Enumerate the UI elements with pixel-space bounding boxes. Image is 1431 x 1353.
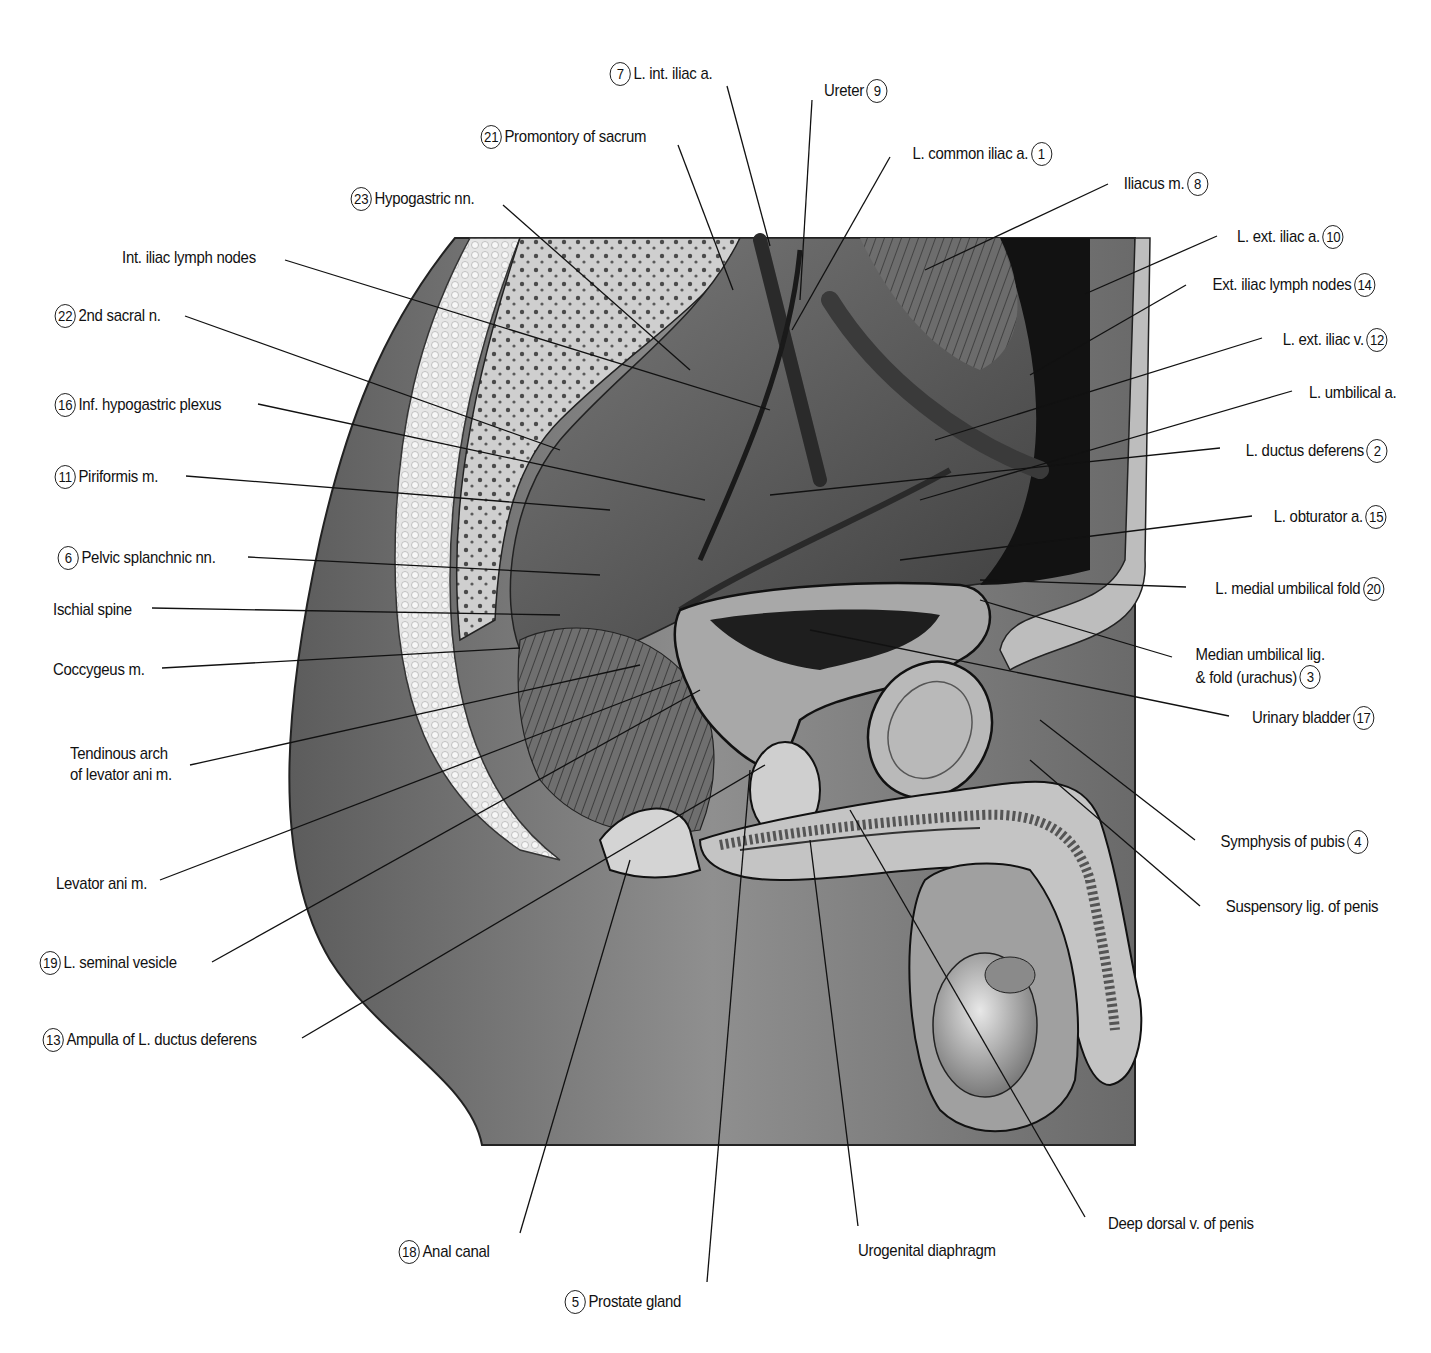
- label-number-badge: 7: [610, 62, 631, 86]
- label-text: L. ductus deferens: [1246, 441, 1364, 460]
- label-text: Anal canal: [422, 1242, 489, 1261]
- label-number-badge: 17: [1353, 706, 1374, 730]
- label-text: Ext. iliac lymph nodes: [1213, 275, 1352, 294]
- label-text: Ureter: [824, 81, 864, 100]
- label-l17: Urinary bladder17: [1252, 706, 1377, 730]
- label-text: L. seminal vesicle: [63, 953, 176, 972]
- label-l7: 7L. int. iliac a.: [607, 62, 712, 86]
- label-text: Deep dorsal v. of penis: [1108, 1214, 1254, 1233]
- label-l1: L. common iliac a.1: [912, 142, 1054, 166]
- label-number-badge: 13: [43, 1028, 64, 1052]
- label-l9: Ureter9: [824, 79, 890, 103]
- label-l15: L. obturator a.15: [1274, 505, 1390, 529]
- label-text: Pelvic splanchnic nn.: [81, 548, 215, 567]
- label-l11: 11Piriformis m.: [52, 465, 158, 489]
- label-l23: 23Hypogastric nn.: [348, 187, 474, 211]
- label-number-badge: 22: [55, 304, 76, 328]
- label-lischial: Ischial spine: [53, 599, 132, 620]
- label-number-badge: 1: [1031, 142, 1052, 166]
- label-ltend: Tendinous arch of levator ani m.: [70, 743, 172, 785]
- label-lintlymph: Int. iliac lymph nodes: [122, 247, 256, 268]
- label-number-badge: 16: [55, 393, 76, 417]
- label-text: Promontory of sacrum: [504, 127, 646, 146]
- leader-line-l7: [727, 86, 770, 246]
- label-lcoccy: Coccygeus m.: [53, 659, 145, 680]
- label-number-badge: 21: [481, 125, 502, 149]
- label-l2: L. ductus deferens2: [1246, 439, 1391, 463]
- label-lsusp: Suspensory lig. of penis: [1226, 896, 1379, 917]
- label-lumbil: L. umbilical a.: [1309, 382, 1397, 403]
- label-text: Tendinous arch of levator ani m.: [70, 744, 172, 784]
- label-l21: 21Promontory of sacrum: [478, 125, 646, 149]
- label-text: Ischial spine: [53, 600, 132, 619]
- label-number-badge: 19: [40, 951, 61, 975]
- label-l10: L. ext. iliac a.10: [1237, 225, 1346, 249]
- label-l19: 19L. seminal vesicle: [37, 951, 177, 975]
- label-text: Levator ani m.: [56, 874, 147, 893]
- label-text: L. common iliac a.: [912, 144, 1028, 163]
- label-number-badge: 4: [1347, 830, 1368, 854]
- label-text: Hypogastric nn.: [374, 189, 474, 208]
- label-text: Urogenital diaphragm: [858, 1241, 996, 1260]
- label-l4: Symphysis of pubis4: [1221, 830, 1372, 854]
- label-text: L. int. iliac a.: [633, 64, 712, 83]
- label-l16: 16Inf. hypogastric plexus: [52, 393, 221, 417]
- label-text: L. umbilical a.: [1309, 383, 1397, 402]
- label-lurogen: Urogenital diaphragm: [858, 1240, 996, 1261]
- label-number-badge: 23: [351, 187, 372, 211]
- anatomy-figure: 7L. int. iliac a.Ureter921Promontory of …: [0, 0, 1431, 1353]
- label-text: L. medial umbilical fold: [1215, 579, 1360, 598]
- label-l20: L. medial umbilical fold20: [1215, 577, 1386, 601]
- label-text: Inf. hypogastric plexus: [78, 395, 221, 414]
- label-number-badge: 2: [1367, 439, 1388, 463]
- label-l18: 18Anal canal: [396, 1240, 490, 1264]
- label-l12: L. ext. iliac v.12: [1283, 328, 1391, 352]
- label-number-badge: 3: [1300, 665, 1321, 689]
- label-text: Iliacus m.: [1124, 174, 1185, 193]
- label-text: Prostate gland: [588, 1292, 681, 1311]
- label-l5: 5Prostate gland: [562, 1290, 681, 1314]
- label-text: Coccygeus m.: [53, 660, 145, 679]
- label-text: L. obturator a.: [1274, 507, 1363, 526]
- label-text: L. ext. iliac v.: [1283, 330, 1364, 349]
- label-llevator: Levator ani m.: [56, 873, 147, 894]
- label-text: Suspensory lig. of penis: [1226, 897, 1379, 916]
- label-ldeepdorsal: Deep dorsal v. of penis: [1108, 1213, 1254, 1234]
- label-l14: Ext. iliac lymph nodes14: [1213, 273, 1378, 297]
- label-number-badge: 18: [399, 1240, 420, 1264]
- label-number-badge: 6: [58, 546, 79, 570]
- label-number-badge: 11: [55, 465, 76, 489]
- label-l3: Median umbilical lig. & fold (urachus)3: [1196, 644, 1325, 689]
- label-number-badge: 10: [1323, 225, 1344, 249]
- label-l8: Iliacus m.8: [1124, 172, 1211, 196]
- label-text: Piriformis m.: [78, 467, 158, 486]
- label-text: L. ext. iliac a.: [1237, 227, 1320, 246]
- label-l13: 13Ampulla of L. ductus deferens: [40, 1028, 257, 1052]
- label-number-badge: 12: [1366, 328, 1387, 352]
- label-text: Urinary bladder: [1252, 708, 1350, 727]
- label-text: Int. iliac lymph nodes: [122, 248, 256, 267]
- label-number-badge: 15: [1366, 505, 1387, 529]
- label-number-badge: 20: [1363, 577, 1384, 601]
- label-text: 2nd sacral n.: [78, 306, 160, 325]
- label-l22: 222nd sacral n.: [52, 304, 161, 328]
- label-text: Symphysis of pubis: [1221, 832, 1345, 851]
- label-number-badge: 8: [1187, 172, 1208, 196]
- label-l6: 6Pelvic splanchnic nn.: [55, 546, 216, 570]
- label-number-badge: 9: [867, 79, 888, 103]
- label-text: Ampulla of L. ductus deferens: [66, 1030, 256, 1049]
- label-number-badge: 14: [1354, 273, 1375, 297]
- epididymis: [985, 957, 1035, 993]
- label-number-badge: 5: [565, 1290, 586, 1314]
